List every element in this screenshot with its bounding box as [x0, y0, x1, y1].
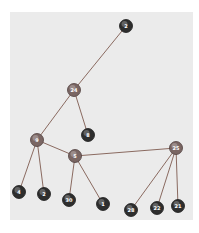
graph-node[interactable]: 5 [69, 150, 82, 163]
node-label: 5 [73, 153, 77, 159]
graph-node[interactable]: 2 [38, 188, 51, 201]
tree-graph: 2248952542301282221 [0, 0, 199, 233]
graph-node[interactable]: 1 [97, 198, 110, 211]
edge-n9-n4 [19, 140, 37, 192]
edge-n25-n21 [176, 148, 178, 206]
edge-n25-n28 [131, 148, 176, 210]
node-label: 8 [86, 132, 90, 138]
node-label: 30 [66, 197, 73, 203]
edge-n25-n22 [157, 148, 176, 208]
graph-node[interactable]: 8 [82, 129, 95, 142]
edge-n5-n25 [75, 148, 176, 156]
node-label: 2 [124, 23, 128, 29]
graph-node[interactable]: 30 [63, 194, 76, 207]
node-label: 2 [42, 191, 46, 197]
graph-node[interactable]: 21 [172, 200, 185, 213]
edges-layer [19, 26, 178, 210]
graph-node[interactable]: 22 [151, 202, 164, 215]
graph-node[interactable]: 28 [125, 204, 138, 217]
edge-n9-n2 [37, 140, 44, 194]
node-label: 22 [154, 205, 161, 211]
edge-n5-n1 [75, 156, 103, 204]
node-label: 9 [35, 137, 39, 143]
node-label: 28 [128, 207, 135, 213]
graph-node[interactable]: 9 [31, 134, 44, 147]
edge-n24-n9 [37, 90, 74, 140]
node-label: 21 [175, 203, 182, 209]
graph-node[interactable]: 25 [170, 142, 183, 155]
node-label: 25 [173, 145, 180, 151]
graph-node[interactable]: 4 [13, 186, 26, 199]
edge-n24-n8 [74, 90, 88, 135]
graph-node[interactable]: 2 [120, 20, 133, 33]
graph-node[interactable]: 24 [68, 84, 81, 97]
node-label: 4 [17, 189, 21, 195]
nodes-layer: 2248952542301282221 [13, 20, 185, 217]
node-label: 24 [71, 87, 78, 93]
edge-n2top-n24 [74, 26, 126, 90]
node-label: 1 [101, 201, 105, 207]
